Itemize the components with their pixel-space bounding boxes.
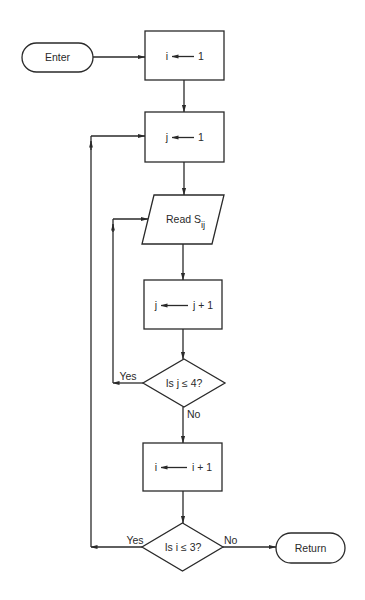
test-j-no-label: No [187,408,201,420]
enter-terminal[interactable]: Enter [22,43,93,72]
inc-j-rhs: j + 1 [192,299,213,311]
test-i-no-label: No [224,534,238,546]
read-subscript: ij [201,219,205,230]
init-j-process-box[interactable]: j 1 [145,112,224,162]
test-j-decision-diamond[interactable]: Is j ≤ 4? [143,359,225,407]
test-j-yes-label: Yes [119,370,136,382]
init-i-rhs: 1 [198,50,204,62]
read-input-parallelogram[interactable]: Read S ij [142,195,224,244]
return-terminal[interactable]: Return [276,533,345,563]
init-i-lhs: i [166,50,168,62]
test-i-yes-label: Yes [126,534,143,546]
inc-i-rhs: i + 1 [192,461,212,473]
enter-label: Enter [45,51,71,63]
svg-text:Read S: Read S [166,213,201,225]
inc-i-process-box[interactable]: i i + 1 [143,443,222,491]
inc-j-lhs: j [154,299,157,311]
test-i-label: Is i ≤ 3? [165,541,202,553]
inc-j-process-box[interactable]: j j + 1 [144,280,222,329]
test-j-label: Is j ≤ 4? [166,377,203,389]
edge-test-i-yes-loop [91,136,145,547]
init-i-process-box[interactable]: i 1 [145,31,224,80]
flowchart-canvas: Enter i 1 j 1 Read S ij j j + 1 Is j ≤ 4… [0,0,365,600]
init-j-rhs: 1 [198,131,204,143]
return-label: Return [295,542,327,554]
init-j-lhs: j [165,131,168,143]
inc-i-lhs: i [155,461,157,473]
test-i-decision-diamond[interactable]: Is i ≤ 3? [142,523,223,571]
read-label: Read S [166,213,201,225]
